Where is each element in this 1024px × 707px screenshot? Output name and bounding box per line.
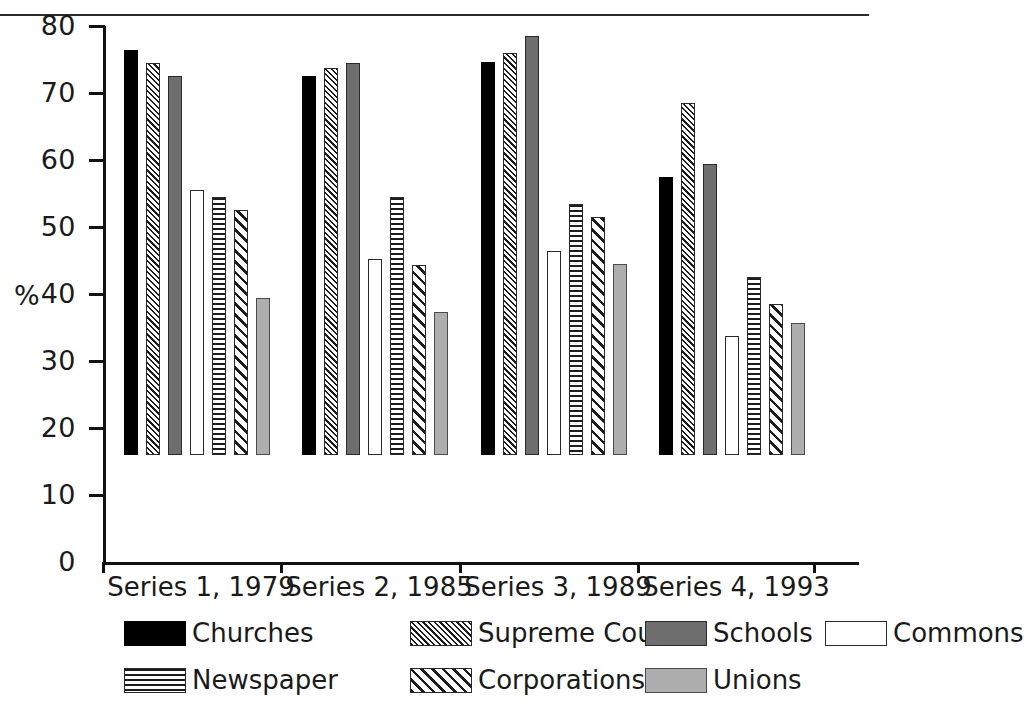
legend-item[interactable]: Schools <box>645 612 813 654</box>
bar <box>613 264 627 455</box>
bar <box>434 312 448 455</box>
x-axis <box>103 562 859 565</box>
bar <box>791 323 805 455</box>
y-tick-30 <box>89 360 105 363</box>
y-tick-20 <box>89 427 105 430</box>
legend-label: Unions <box>713 667 802 693</box>
bar <box>503 53 517 455</box>
legend-item[interactable]: Unions <box>645 659 802 701</box>
bar <box>703 164 717 455</box>
bar <box>412 265 426 455</box>
x-axis-label: Series 4, 1993 <box>621 572 851 602</box>
y-tick-label-30: 30 <box>30 347 76 374</box>
legend-item[interactable]: Commons <box>825 612 1024 654</box>
y-tick-70 <box>89 92 105 95</box>
y-tick-label-10: 10 <box>30 481 76 508</box>
legend-swatch-icon <box>645 668 707 693</box>
bar <box>591 217 605 455</box>
bar <box>725 336 739 455</box>
bar <box>146 63 160 455</box>
legend-swatch-icon <box>825 621 887 646</box>
y-tick-label-80: 80 <box>30 12 76 39</box>
legend-item[interactable]: Supreme Court <box>410 612 675 654</box>
bar <box>190 190 204 455</box>
bar <box>769 304 783 455</box>
legend-row-1: ChurchesSupreme CourtSchoolsCommons <box>0 612 869 654</box>
legend-swatch-icon <box>410 668 472 693</box>
bar <box>368 259 382 455</box>
bar <box>390 197 404 455</box>
y-tick-label-60: 60 <box>30 146 76 173</box>
bar <box>547 251 561 455</box>
y-tick-label-20: 20 <box>30 414 76 441</box>
legend-label: Schools <box>713 620 813 646</box>
bar <box>168 76 182 455</box>
legend-item[interactable]: Corporations <box>410 659 645 701</box>
y-tick-80 <box>89 25 105 28</box>
legend-swatch-icon <box>645 621 707 646</box>
legend-item[interactable]: Newspaper <box>124 659 338 701</box>
y-tick-label-40: 40 <box>30 280 76 307</box>
y-tick-40 <box>89 293 105 296</box>
bar <box>212 197 226 455</box>
legend: ChurchesSupreme CourtSchoolsCommons News… <box>0 612 869 707</box>
bar <box>481 62 495 455</box>
legend-label: Churches <box>192 620 314 646</box>
y-tick-label-70: 70 <box>30 79 76 106</box>
bar <box>324 68 338 455</box>
bar <box>747 277 761 455</box>
bar <box>256 298 270 455</box>
bar <box>346 63 360 455</box>
bar-chart: % 80706050403020100 Series 1, 1979Series… <box>0 0 869 600</box>
legend-item[interactable]: Churches <box>124 612 314 654</box>
legend-label: Commons <box>893 620 1024 646</box>
legend-swatch-icon <box>410 621 472 646</box>
bar <box>659 177 673 455</box>
legend-swatch-icon <box>124 621 186 646</box>
bar <box>234 210 248 455</box>
y-tick-60 <box>89 159 105 162</box>
y-tick-label-50: 50 <box>30 213 76 240</box>
legend-label: Corporations <box>478 667 645 693</box>
legend-swatch-icon <box>124 668 186 693</box>
bar <box>124 50 138 455</box>
y-tick-50 <box>89 226 105 229</box>
bar <box>681 103 695 455</box>
bar <box>302 76 316 455</box>
y-tick-10 <box>89 494 105 497</box>
legend-label: Newspaper <box>192 667 338 693</box>
bar <box>569 204 583 455</box>
legend-row-2: NewspaperCorporationsUnions <box>0 659 869 701</box>
y-tick-label-0: 0 <box>30 548 76 575</box>
bar <box>525 36 539 455</box>
